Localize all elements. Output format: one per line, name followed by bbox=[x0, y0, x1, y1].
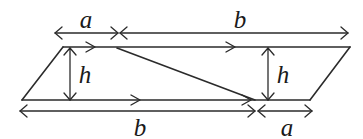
dimension-bottom-a: a bbox=[258, 105, 312, 139]
dimension-right-h-label: h bbox=[277, 61, 290, 88]
parallelogram-left-edge bbox=[22, 47, 63, 100]
dimension-bottom-a-label: a bbox=[281, 114, 294, 139]
interior-diagonal bbox=[117, 48, 255, 100]
dimension-top-a: a bbox=[55, 6, 118, 39]
figure-canvas: a b h h b bbox=[0, 0, 363, 139]
dimension-bottom-b: b bbox=[20, 105, 255, 139]
dimension-left-h-label: h bbox=[79, 61, 92, 88]
geometry-figure: a b h h b bbox=[0, 0, 363, 139]
dimension-top-b: b bbox=[120, 6, 348, 39]
parallelogram-right-edge bbox=[310, 47, 350, 100]
dimension-top-a-label: a bbox=[80, 6, 93, 33]
dimension-left-h: h bbox=[64, 48, 91, 100]
dimension-right-h: h bbox=[262, 48, 289, 100]
dimension-top-b-label: b bbox=[234, 6, 247, 33]
dimension-bottom-b-label: b bbox=[134, 114, 147, 139]
edge-direction-markers bbox=[86, 42, 251, 105]
